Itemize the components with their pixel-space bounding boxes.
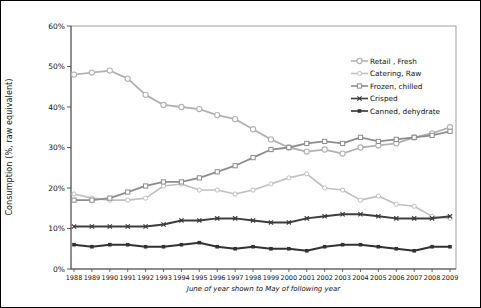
x-tick-label: 2006 — [388, 274, 405, 282]
series-line-frozen-chilled — [74, 131, 450, 200]
x-tick-label: 1998 — [245, 274, 262, 282]
x-tick-label: 1997 — [227, 274, 244, 282]
x-tick-label: 2002 — [316, 274, 333, 282]
series-crisped — [72, 212, 452, 228]
y-tick-label: 20% — [48, 184, 65, 193]
x-tick-label: 1994 — [173, 274, 190, 282]
legend-label: Canned, dehydrate — [370, 107, 441, 116]
series-canned-dehydrate — [72, 241, 452, 253]
y-axis-title: Consumption (%, raw equivalent) — [5, 77, 19, 217]
series-frozen-chilled — [72, 129, 452, 202]
x-tick-label: 1988 — [66, 274, 83, 282]
y-tick-label: 10% — [48, 224, 65, 233]
x-tick-label: 1989 — [84, 274, 101, 282]
legend-item-2: Catering, Raw — [351, 69, 421, 78]
x-tick-label: 2004 — [352, 274, 369, 282]
y-tick-label: 30% — [48, 143, 65, 152]
chart-figure: 0%10%20%30%40%50%60%19881989199019911992… — [0, 0, 481, 308]
x-tick-label: 2001 — [298, 274, 315, 282]
y-tick-label: 50% — [48, 62, 65, 71]
x-tick-label: 2008 — [424, 274, 441, 282]
series-catering-raw — [72, 172, 452, 221]
legend-label: Crisped — [370, 94, 398, 103]
y-axis-ticks: 0%10%20%30%40%50%60% — [48, 22, 71, 274]
x-tick-label: 1995 — [191, 274, 208, 282]
legend-label: Frozen, chilled — [370, 82, 422, 91]
x-tick-label: 2005 — [370, 274, 387, 282]
x-axis-ticks: 1988198919901991199219931994199519961997… — [66, 269, 459, 282]
line-chart: 0%10%20%30%40%50%60%19881989199019911992… — [1, 1, 481, 308]
x-tick-label: 1993 — [155, 274, 172, 282]
x-tick-label: 2007 — [406, 274, 423, 282]
x-tick-label: 2003 — [334, 274, 351, 282]
x-tick-label: 1999 — [263, 274, 280, 282]
x-tick-label: 2009 — [442, 274, 459, 282]
legend-label: Retail , Fresh — [370, 57, 417, 66]
legend-item-4: Crisped — [351, 94, 398, 103]
series-line-catering-raw — [74, 174, 450, 219]
y-tick-label: 0% — [53, 265, 65, 274]
series-line-canned-dehydrate — [74, 243, 450, 251]
legend-label: Catering, Raw — [370, 69, 421, 78]
x-tick-label: 1992 — [137, 274, 154, 282]
x-tick-label: 1991 — [119, 274, 136, 282]
x-axis-caption: June of year shown to May of following y… — [71, 285, 456, 293]
x-tick-label: 1996 — [209, 274, 226, 282]
y-tick-label: 60% — [48, 22, 65, 31]
legend-item-1: Retail , Fresh — [351, 57, 417, 66]
legend-item-3: Frozen, chilled — [351, 82, 422, 91]
legend-item-5: Canned, dehydrate — [351, 107, 441, 116]
y-tick-label: 40% — [48, 103, 65, 112]
x-tick-label: 2000 — [281, 274, 298, 282]
series-line-crisped — [74, 214, 450, 226]
legend: Retail , FreshCatering, RawFrozen, chill… — [351, 57, 441, 116]
x-tick-label: 1990 — [102, 274, 119, 282]
